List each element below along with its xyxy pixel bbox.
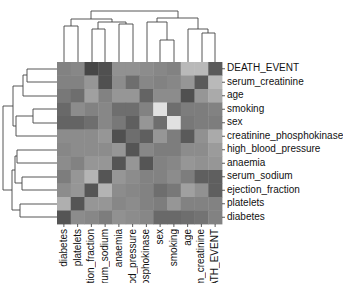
heatmap-cell <box>208 143 222 157</box>
column-label: diabetes <box>58 229 70 267</box>
heatmap-cell <box>57 76 71 90</box>
heatmap-cell <box>85 143 99 157</box>
heatmap-cell <box>126 197 140 211</box>
heatmap-cell <box>167 103 181 117</box>
heatmap-cell <box>112 89 126 103</box>
heatmap-cell <box>112 184 126 198</box>
heatmap-cell <box>140 130 154 144</box>
heatmap-cell <box>112 143 126 157</box>
row-label: serum_sodium <box>227 170 293 182</box>
heatmap-cell <box>208 103 222 117</box>
heatmap-cell <box>112 76 126 90</box>
heatmap-cell <box>153 76 167 90</box>
heatmap-cell <box>208 130 222 144</box>
heatmap-cell <box>85 116 99 130</box>
heatmap-cell <box>167 116 181 130</box>
heatmap-cell <box>195 89 209 103</box>
heatmap-cell <box>98 143 112 157</box>
heatmap-cell <box>126 143 140 157</box>
heatmap-cell <box>126 103 140 117</box>
heatmap-cell <box>98 157 112 171</box>
heatmap-cell <box>167 89 181 103</box>
column-label: anaemia <box>113 229 125 267</box>
heatmap-cell <box>112 157 126 171</box>
heatmap-cell <box>112 103 126 117</box>
column-label: high_blood_pressure <box>127 229 139 283</box>
heatmap-cell <box>85 157 99 171</box>
heatmap-cell <box>140 157 154 171</box>
heatmap-cell <box>208 197 222 211</box>
heatmap-cell <box>126 211 140 225</box>
heatmap-cell <box>71 103 85 117</box>
heatmap-cell <box>181 143 195 157</box>
heatmap-cell <box>153 170 167 184</box>
heatmap-cell <box>181 76 195 90</box>
column-label: smoking <box>168 229 180 266</box>
heatmap-cell <box>85 103 99 117</box>
heatmap-cell <box>208 76 222 90</box>
heatmap-cell <box>140 184 154 198</box>
heatmap-cell <box>153 62 167 76</box>
heatmap-cell <box>195 143 209 157</box>
heatmap-cell <box>140 103 154 117</box>
heatmap-cell <box>153 143 167 157</box>
heatmap-cell <box>153 116 167 130</box>
heatmap-cell <box>181 211 195 225</box>
heatmap-cell <box>85 197 99 211</box>
heatmap-cell <box>140 76 154 90</box>
heatmap-cell <box>126 184 140 198</box>
heatmap-cell <box>181 157 195 171</box>
heatmap-cell <box>208 116 222 130</box>
heatmap-cell <box>126 130 140 144</box>
heatmap-cell <box>195 76 209 90</box>
heatmap-cell <box>126 170 140 184</box>
heatmap-cell <box>71 62 85 76</box>
heatmap-cell <box>167 184 181 198</box>
heatmap-cell <box>98 184 112 198</box>
heatmap-cell <box>181 62 195 76</box>
heatmap-cell <box>71 211 85 225</box>
column-label: ejection_fraction <box>85 229 97 283</box>
heatmap-cell <box>167 76 181 90</box>
heatmap-cell <box>71 116 85 130</box>
heatmap-cell <box>153 89 167 103</box>
heatmap-cell <box>167 197 181 211</box>
heatmap-cell <box>153 130 167 144</box>
heatmap-cell <box>126 157 140 171</box>
heatmap-cell <box>98 89 112 103</box>
row-label: creatinine_phosphokinase <box>227 130 343 142</box>
heatmap-cell <box>195 211 209 225</box>
heatmap-cell <box>181 170 195 184</box>
column-dendrogram <box>64 11 215 62</box>
heatmap-cell <box>71 157 85 171</box>
heatmap-cell <box>167 143 181 157</box>
row-label: high_blood_pressure <box>227 143 320 155</box>
row-label: diabetes <box>227 211 265 223</box>
heatmap-cell <box>57 197 71 211</box>
row-label: ejection_fraction <box>227 184 300 196</box>
heatmap-cell <box>85 89 99 103</box>
column-label: DEATH_EVENT <box>209 229 221 283</box>
heatmap-cell <box>208 62 222 76</box>
heatmap-cell <box>126 89 140 103</box>
column-label: creatinine_phosphokinase <box>140 229 152 283</box>
heatmap-cell <box>71 143 85 157</box>
heatmap-cell <box>167 62 181 76</box>
row-label: platelets <box>227 197 264 209</box>
heatmap-cell <box>126 62 140 76</box>
heatmap-cell <box>208 170 222 184</box>
heatmap-cell <box>181 197 195 211</box>
heatmap-cell <box>140 170 154 184</box>
row-label: smoking <box>227 103 264 115</box>
heatmap-cell <box>181 130 195 144</box>
heatmap-cell <box>57 103 71 117</box>
heatmap-cell <box>71 184 85 198</box>
heatmap-cell <box>140 197 154 211</box>
heatmap-cell <box>98 170 112 184</box>
heatmap-cell <box>98 76 112 90</box>
heatmap-cell <box>71 76 85 90</box>
heatmap-cell <box>195 62 209 76</box>
heatmap-cell <box>126 76 140 90</box>
row-label: age <box>227 89 244 101</box>
heatmap-cell <box>85 62 99 76</box>
